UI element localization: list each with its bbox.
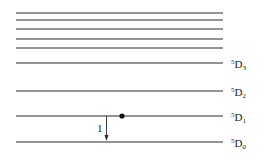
energy-level-diagram: 5D3 5D2 5D1 5D0 1 — [0, 0, 262, 160]
level-5D2-label: 5D2 — [231, 86, 246, 100]
electron-dot-icon — [119, 113, 124, 118]
transition-arrow-head-icon — [105, 135, 109, 141]
transition-label: 1 — [97, 122, 103, 134]
level-5D3-label: 5D3 — [231, 58, 246, 72]
level-5D0-label: 5D0 — [231, 137, 246, 151]
level-5D1-label: 5D1 — [231, 111, 246, 125]
